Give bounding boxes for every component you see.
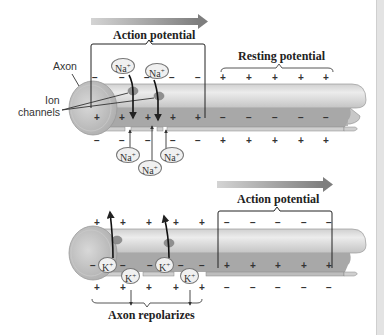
top-axon	[69, 81, 366, 135]
charge-sign: +	[197, 218, 207, 228]
charge-sign: −	[296, 113, 306, 123]
charge-sign: +	[144, 283, 154, 293]
na-ion: Na+	[160, 147, 184, 163]
charge-sign: −	[222, 218, 232, 228]
charge-sign: −	[324, 283, 334, 293]
charge-sign: −	[299, 283, 309, 293]
charge-sign: −	[244, 113, 254, 123]
charge-sign: +	[248, 261, 258, 271]
charge-sign: +	[296, 73, 306, 83]
charge-sign: +	[324, 261, 334, 271]
charge-sign: +	[296, 136, 306, 146]
charge-sign: −	[193, 136, 203, 146]
na-ion: Na+	[116, 147, 140, 163]
charge-sign: −	[299, 218, 309, 228]
repolarizes-bracket	[92, 299, 202, 307]
charge-sign: −	[88, 261, 98, 271]
charge-sign: +	[117, 113, 127, 123]
charge-sign: +	[144, 218, 154, 228]
charge-sign: +	[218, 136, 228, 146]
charge-sign: +	[270, 136, 280, 146]
charge-sign: +	[92, 113, 102, 123]
charge-sign: −	[222, 283, 232, 293]
charge-sign: +	[222, 261, 232, 271]
charge-sign: −	[143, 136, 153, 146]
k-ion: K+	[155, 257, 174, 273]
charge-sign: −	[197, 261, 207, 271]
charge-sign: −	[145, 261, 155, 271]
charge-sign: −	[270, 113, 280, 123]
charge-sign: +	[197, 283, 207, 293]
charge-sign: −	[193, 73, 203, 83]
charge-sign: +	[171, 218, 181, 228]
na-ion: Na+	[138, 160, 162, 176]
charge-sign: −	[176, 261, 186, 271]
charge-sign: −	[118, 261, 128, 271]
charge-sign: −	[168, 136, 178, 146]
k-ion: K+	[98, 257, 117, 273]
top-action-potential-label: Action potential	[113, 28, 195, 43]
charge-sign: +	[321, 73, 331, 83]
charge-sign: +	[193, 113, 203, 123]
charge-sign: +	[270, 73, 280, 83]
charge-sign: −	[117, 73, 127, 83]
top-rest-bracket	[221, 64, 333, 72]
charge-sign: −	[90, 73, 100, 83]
charge-sign: −	[324, 218, 334, 228]
charge-sign: +	[299, 261, 309, 271]
bottom-action-potential-label: Action potential	[237, 192, 319, 207]
charge-sign: −	[92, 136, 102, 146]
charge-sign: +	[143, 113, 153, 123]
ion-channels-label-line2: channels	[18, 106, 60, 118]
bottom-direction-arrow	[217, 177, 333, 192]
charge-sign: −	[142, 73, 152, 83]
charge-sign: −	[321, 113, 331, 123]
charge-sign: +	[273, 261, 283, 271]
charge-sign: +	[118, 218, 128, 228]
axon-repolarizes-label: Axon repolarizes	[108, 308, 195, 323]
charge-sign: −	[167, 73, 177, 83]
page-edge-strip	[376, 0, 384, 335]
ion-channels-label-line1: Ion	[45, 94, 60, 106]
charge-sign: +	[218, 73, 228, 83]
charge-sign: −	[218, 113, 228, 123]
resting-potential-label: Resting potential	[238, 49, 325, 64]
charge-sign: +	[321, 136, 331, 146]
charge-sign: −	[248, 218, 258, 228]
charge-sign: +	[244, 73, 254, 83]
charge-sign: +	[244, 136, 254, 146]
charge-sign: +	[171, 283, 181, 293]
top-direction-arrow	[91, 14, 208, 29]
charge-sign: +	[168, 113, 178, 123]
charge-sign: −	[248, 283, 258, 293]
charge-sign: +	[92, 283, 102, 293]
charge-sign: −	[273, 218, 283, 228]
charge-sign: +	[92, 218, 102, 228]
charge-sign: +	[118, 283, 128, 293]
axon-label: Axon	[53, 60, 77, 72]
charge-sign: −	[273, 283, 283, 293]
charge-sign: −	[117, 136, 127, 146]
